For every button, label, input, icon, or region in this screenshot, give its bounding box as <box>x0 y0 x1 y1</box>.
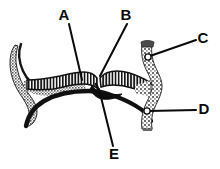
figure-root: A B C D E <box>0 0 220 169</box>
diagram-canvas: A B C D E <box>0 0 220 169</box>
label-a: A <box>59 6 70 23</box>
label-b: B <box>121 6 132 23</box>
label-c: C <box>198 29 209 46</box>
label-d: D <box>199 100 210 117</box>
marker-c <box>145 54 151 60</box>
leader-line-d <box>149 110 196 111</box>
label-e: E <box>109 145 119 162</box>
marker-d <box>144 108 150 114</box>
